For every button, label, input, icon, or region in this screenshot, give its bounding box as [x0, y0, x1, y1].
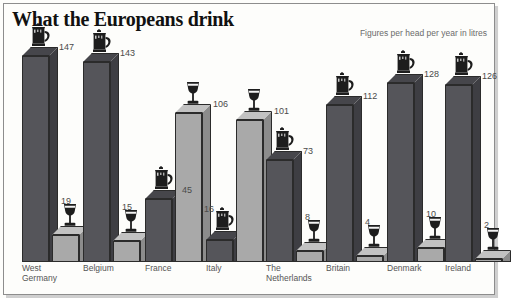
beer-bar: [22, 56, 49, 262]
beer-bar: [445, 85, 472, 262]
category-label: West Germany: [22, 264, 57, 283]
bar-front-face: [83, 62, 110, 262]
wine-value-label: 8: [305, 212, 310, 222]
bar-front-face: [145, 199, 172, 262]
wine-value-label: 19: [61, 196, 71, 206]
wine-value-label: 106: [213, 99, 228, 109]
category-label: The Netherlands: [266, 264, 312, 283]
beer-stein-icon: [450, 52, 474, 81]
category-label: Denmark: [387, 264, 421, 274]
bar-front-face: [206, 240, 233, 262]
wine-bar: [52, 235, 79, 262]
bar-side-face: [353, 96, 362, 262]
wine-bar: [236, 120, 263, 262]
chart-caption: Figures per head per year in litres: [360, 28, 487, 38]
bar-front-face: [296, 251, 323, 262]
beer-stein-icon: [392, 50, 416, 79]
category-label: France: [145, 264, 171, 274]
beer-bar: [266, 160, 293, 262]
beer-stein-icon: [150, 166, 174, 195]
wine-glass-icon: [61, 203, 79, 231]
wine-bar: [356, 256, 383, 262]
wine-glass-icon: [122, 209, 140, 237]
category-label: Ireland: [445, 264, 471, 274]
bar-side-face: [293, 151, 302, 262]
wine-bar: [475, 259, 502, 262]
beer-stein-icon: [271, 127, 295, 156]
wine-glass-icon: [245, 88, 263, 116]
bar-front-face: [22, 56, 49, 262]
wine-glass-icon: [484, 227, 502, 255]
beer-value-label: 16: [204, 204, 214, 214]
beer-bar: [326, 105, 353, 262]
category-label-row: West GermanyBelgiumFranceItalyThe Nether…: [8, 264, 491, 294]
bar-front-face: [326, 105, 353, 262]
category-label: Belgium: [83, 264, 114, 274]
wine-bar: [113, 241, 140, 262]
chart-plot-area: 147191431545106161017381124128101262: [8, 34, 491, 262]
beer-bar: [83, 62, 110, 262]
bar-front-face: [236, 120, 263, 262]
beer-stein-icon: [88, 29, 112, 58]
beer-stein-icon: [331, 72, 355, 101]
wine-glass-icon: [426, 216, 444, 244]
beer-bar: [206, 240, 233, 262]
beer-value-label: 143: [120, 48, 135, 58]
category-label: Italy: [206, 264, 222, 274]
bar-side-face: [110, 53, 119, 262]
bar-front-face: [52, 235, 79, 262]
wine-value-label: 101: [274, 106, 289, 116]
wine-value-label: 4: [365, 217, 370, 227]
beer-value-label: 128: [424, 69, 439, 79]
page-title: What the Europeans drink: [12, 8, 234, 31]
beer-value-label: 147: [59, 42, 74, 52]
bar-side-face: [49, 47, 58, 262]
wine-value-label: 2: [484, 220, 489, 230]
bar-front-face: [475, 259, 502, 262]
wine-bar: [417, 248, 444, 262]
beer-value-label: 112: [363, 91, 377, 101]
wine-glass-icon: [365, 224, 383, 252]
beer-value-label: 126: [482, 71, 497, 81]
wine-glass-icon: [305, 219, 323, 247]
beer-value-label: 73: [303, 146, 313, 156]
bar-front-face: [445, 85, 472, 262]
category-label: Britain: [326, 264, 350, 274]
bar-front-face: [356, 256, 383, 262]
wine-glass-icon: [184, 81, 202, 109]
beer-stein-icon: [211, 207, 235, 236]
wine-value-label: 10: [426, 209, 436, 219]
beer-value-label: 45: [182, 185, 192, 195]
wine-value-label: 15: [122, 202, 132, 212]
wine-bar: [296, 251, 323, 262]
bar-front-face: [113, 241, 140, 262]
bar-front-face: [417, 248, 444, 262]
bar-front-face: [266, 160, 293, 262]
bar-side-face: [472, 76, 481, 262]
beer-bar: [387, 83, 414, 262]
beer-bar: [145, 199, 172, 262]
bar-side-face: [414, 74, 423, 262]
bar-front-face: [387, 83, 414, 262]
